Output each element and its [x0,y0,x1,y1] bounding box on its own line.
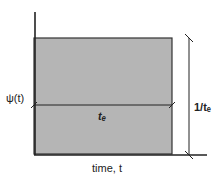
x-axis-label: time, t [92,162,122,174]
height-label: 1/tₑ [194,101,211,113]
width-label: tₑ [98,110,106,122]
pulse-rectangle [34,38,172,154]
y-axis-label: ψ(t) [6,92,24,104]
pulse-diagram [0,0,221,186]
